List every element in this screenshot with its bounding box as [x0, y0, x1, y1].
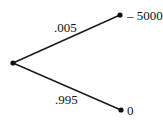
upper-outcome-label: – 5000 — [127, 9, 163, 22]
lower-probability-label: .995 — [55, 93, 78, 106]
lower-end-node — [118, 107, 123, 112]
upper-end-node — [117, 12, 122, 17]
lower-outcome-label: 0 — [127, 104, 134, 117]
upper-probability-label: .005 — [54, 21, 77, 34]
root-node — [10, 60, 15, 65]
